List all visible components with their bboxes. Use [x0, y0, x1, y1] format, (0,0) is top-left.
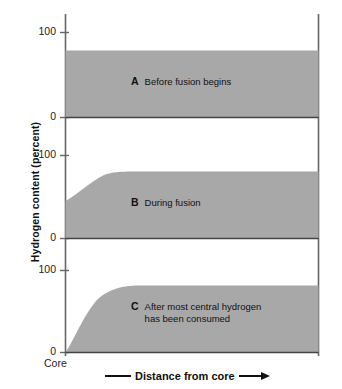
panel-b-tick-label-100: 100: [22, 148, 56, 160]
chart-plot-area: [0, 0, 342, 389]
panel-c-caption-line1: After most central hydrogen: [145, 301, 262, 312]
panel-c-caption-text: After most central hydrogenhas been cons…: [145, 301, 262, 324]
panel-a-caption: ABefore fusion begins: [131, 76, 231, 88]
panel-a-tick-label-100: 100: [22, 25, 56, 37]
panel-a-group: [60, 33, 319, 118]
panel-c-letter: C: [131, 300, 139, 312]
x-axis-title: Distance from core: [135, 370, 235, 382]
panel-b-caption-text: During fusion: [145, 197, 201, 209]
panel-c-tick-label-0: 0: [22, 345, 56, 357]
panel-c-caption-line2: has been consumed: [145, 313, 231, 324]
panel-b-tick-label-0: 0: [22, 231, 56, 243]
right-arrow-icon: [239, 372, 270, 380]
panel-b-caption: BDuring fusion: [131, 197, 201, 209]
hydrogen-content-figure: Hydrogen content (percent) 100 0 100 0 1…: [0, 0, 342, 389]
x-axis-origin-label: Core: [44, 357, 67, 369]
x-axis-left-rule: [105, 375, 131, 377]
panel-a-caption-text: Before fusion begins: [145, 76, 232, 88]
panel-b-letter: B: [131, 196, 139, 208]
panel-a-letter: A: [131, 75, 139, 87]
x-axis-title-row: Distance from core: [105, 367, 305, 385]
panel-c-caption: CAfter most central hydrogenhas been con…: [131, 301, 261, 324]
panel-c-tick-label-100: 100: [22, 263, 56, 275]
panel-a-tick-label-0: 0: [22, 110, 56, 122]
